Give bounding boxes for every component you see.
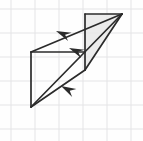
parallelepiped-diagram [0, 0, 143, 141]
figure-container [0, 0, 143, 141]
canvas-background [0, 0, 143, 141]
